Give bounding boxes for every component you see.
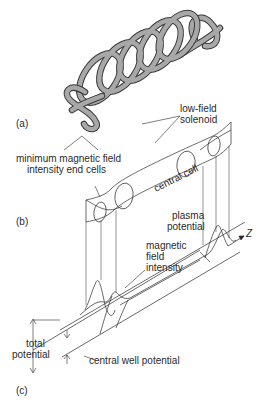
total-potential-label-line2: potential xyxy=(12,349,50,360)
plasma-potential-label-line2: potential xyxy=(167,221,205,232)
endcells-label-line2: intensity end cells xyxy=(27,164,106,175)
projection-lines xyxy=(86,146,229,305)
central-well-potential-label: central well potential xyxy=(89,355,180,366)
panel-label-b: (b) xyxy=(16,216,28,227)
z-axis-label: Z xyxy=(246,228,252,239)
field-intensity-label-line3: intensity xyxy=(146,262,183,273)
solenoid-label-line2: solenoid xyxy=(180,114,217,125)
z-axis-arrow xyxy=(228,236,244,246)
panel-label-a: (a) xyxy=(16,118,28,129)
panel-label-c: (c) xyxy=(16,385,28,396)
field-intensity-label-line1: magnetic xyxy=(146,240,187,251)
endcells-label-line1: minimum magnetic field xyxy=(16,153,121,164)
plasma-potential-label-line1: plasma xyxy=(172,210,204,221)
plasma-surface xyxy=(86,122,231,223)
tandem-mirror-diagram: (a) low-field solenoid minimum magnetic … xyxy=(0,0,263,401)
axial-profiles xyxy=(33,222,245,357)
field-intensity-label-line2: field xyxy=(146,251,164,262)
total-potential-label-line1: total xyxy=(26,338,45,349)
solenoid-label-line1: low-field xyxy=(180,103,217,114)
